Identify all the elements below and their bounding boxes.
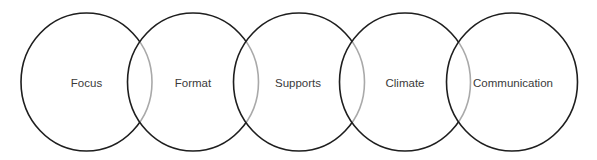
label-climate: Climate: [386, 77, 425, 89]
label-supports: Supports: [275, 77, 321, 89]
label-format: Format: [175, 77, 212, 89]
label-communication: Communication: [473, 77, 553, 89]
label-focus: Focus: [71, 77, 103, 89]
venn-chain-diagram: Focus Format Supports Climate Communicat…: [0, 0, 597, 160]
